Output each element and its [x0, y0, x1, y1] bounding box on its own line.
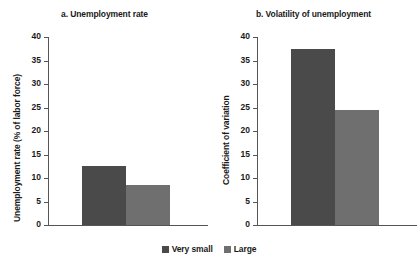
chart-panel-b: b. Volatility of unemployment 0510152025…	[209, 0, 418, 240]
chart-legend: Very small Large	[0, 244, 418, 254]
y-tick-label: 25	[32, 102, 41, 113]
panel-a-plot-area	[48, 37, 205, 225]
y-tick-label: 35	[32, 55, 41, 66]
figure-container: a. Unemployment rate Unemployment rate (…	[0, 0, 418, 266]
y-tick-label: 15	[241, 149, 250, 160]
y-tick-label: 20	[241, 125, 250, 136]
y-tick-label: 20	[32, 125, 41, 136]
y-tick-label: 10	[241, 172, 250, 183]
bar-a-very-small	[82, 166, 126, 225]
y-tick-label: 30	[241, 78, 250, 89]
y-tick-label: 40	[32, 31, 41, 42]
y-tick-label: 25	[241, 102, 250, 113]
panel-b-plot-area	[257, 37, 414, 225]
y-tick: 0	[44, 225, 48, 226]
bar-a-large	[126, 185, 170, 225]
y-tick-label: 10	[32, 172, 41, 183]
legend-item-large: Large	[224, 244, 257, 254]
legend-swatch-icon-very-small	[162, 246, 169, 253]
panel-b-y-axis-label: Coefficient of variation	[221, 95, 231, 185]
bar-b-large	[335, 110, 379, 225]
panel-a-x-axis-line	[48, 225, 208, 226]
y-tick-label: 0	[36, 219, 41, 230]
legend-swatch-icon-large	[224, 246, 231, 253]
panel-b-title: b. Volatility of unemployment	[209, 9, 418, 19]
y-tick-label: 5	[36, 196, 41, 207]
legend-label-very-small: Very small	[172, 244, 213, 254]
panel-b-x-axis-line	[257, 225, 417, 226]
legend-label-large: Large	[234, 244, 257, 254]
y-tick-label: 40	[241, 31, 250, 42]
bar-b-very-small	[291, 49, 335, 225]
y-tick-label: 0	[245, 219, 250, 230]
y-tick-label: 35	[241, 55, 250, 66]
chart-panel-a: a. Unemployment rate Unemployment rate (…	[0, 0, 209, 240]
panel-a-title: a. Unemployment rate	[0, 9, 209, 19]
y-tick-label: 5	[245, 196, 250, 207]
y-tick-label: 30	[32, 78, 41, 89]
y-tick: 0	[253, 225, 257, 226]
panel-a-y-axis-label: Unemployment rate (% of labor force)	[12, 74, 22, 222]
legend-item-very-small: Very small	[162, 244, 213, 254]
y-tick-label: 15	[32, 149, 41, 160]
